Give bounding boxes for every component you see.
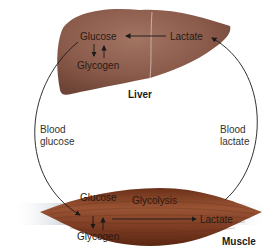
blood-lactate-arrow bbox=[212, 38, 257, 200]
muscle-lactate-label: Lactate bbox=[200, 214, 233, 225]
liver-lactate-label: Lactate bbox=[170, 31, 203, 42]
muscle-glycolysis-label: Glycolysis bbox=[132, 195, 177, 206]
cori-cycle-diagram: Glucose Lactate Glycogen Liver Blood glu… bbox=[0, 0, 280, 252]
muscle-label: Muscle bbox=[222, 236, 256, 247]
muscle-glycogen-label: Glycogen bbox=[77, 231, 119, 242]
liver-label: Liver bbox=[128, 89, 152, 100]
muscle-glucose-label: Glucose bbox=[80, 192, 117, 203]
liver-glycogen-label: Glycogen bbox=[77, 60, 119, 71]
liver-glucose-label: Glucose bbox=[80, 31, 117, 42]
liver-shape bbox=[57, 9, 230, 95]
blood-lactate-label-line2: lactate bbox=[220, 136, 250, 147]
blood-glucose-label-line1: Blood bbox=[40, 124, 66, 135]
blood-glucose-label-line2: glucose bbox=[40, 136, 75, 147]
blood-lactate-label-line1: Blood bbox=[220, 124, 246, 135]
